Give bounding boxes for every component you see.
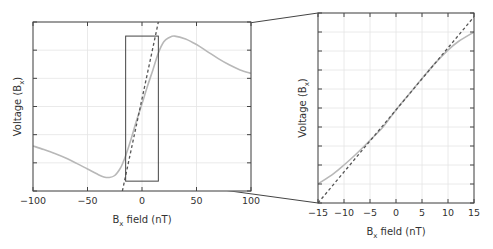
overview-plot: −100−50050100Bx field (nT)Voltage (Bx) [12, 22, 260, 228]
x-axis-label: Bx field (nT) [112, 214, 171, 228]
x-tick-label: −50 [77, 195, 97, 206]
x-tick-label: 0 [139, 195, 145, 206]
x-tick-label: 10 [442, 207, 454, 218]
x-tick-label: 100 [242, 195, 260, 206]
x-tick-label: −15 [308, 207, 328, 218]
x-tick-label: 50 [190, 195, 202, 206]
zoomed-plot: −15−10−5051015Bx field (nT)Voltage (Bx) [297, 13, 480, 240]
x-tick-label: 5 [419, 207, 425, 218]
chart-canvas: −100−50050100Bx field (nT)Voltage (Bx) −… [0, 0, 493, 249]
y-axis-label: Voltage (Bx) [297, 78, 311, 138]
y-axis-label: Voltage (Bx) [12, 77, 26, 137]
x-tick-label: 0 [393, 207, 399, 218]
x-tick-label: 15 [468, 207, 480, 218]
x-tick-label: −100 [20, 195, 46, 206]
x-tick-label: −10 [334, 207, 354, 218]
x-axis-label: Bx field (nT) [366, 226, 425, 240]
figure: −100−50050100Bx field (nT)Voltage (Bx) −… [0, 0, 493, 249]
x-tick-label: −5 [363, 207, 377, 218]
